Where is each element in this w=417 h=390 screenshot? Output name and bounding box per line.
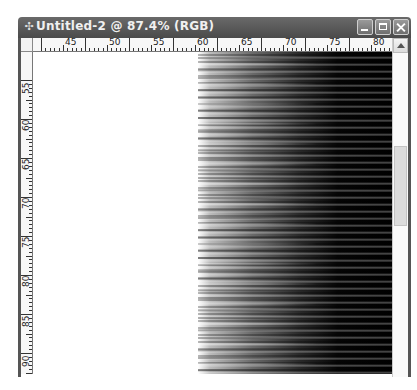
ruler-tick (26, 295, 32, 296)
ruler-tick (182, 48, 183, 51)
ruler-tick (336, 48, 337, 51)
ruler-tick (164, 48, 165, 51)
ruler-label: 60 (197, 38, 208, 47)
ruler-tick (29, 142, 32, 143)
ruler-tick (29, 291, 32, 292)
ruler-tick (142, 48, 143, 51)
ruler-label: 70 (285, 38, 296, 47)
ruler-tick (29, 150, 32, 151)
ruler-tick (29, 181, 32, 182)
ruler-tick (29, 298, 32, 299)
ruler-tick (29, 185, 32, 186)
ruler-label: 65 (22, 156, 31, 170)
close-button[interactable] (393, 19, 409, 35)
ruler-tick (29, 154, 32, 155)
ruler-label: 80 (22, 273, 31, 287)
ruler-origin-corner[interactable] (21, 38, 33, 52)
ruler-tick (29, 135, 32, 136)
ruler-tick (26, 217, 32, 218)
ruler-tick (204, 48, 205, 51)
ruler-tick (199, 48, 200, 51)
ruler-tick (29, 232, 32, 233)
ruler-tick (98, 48, 99, 51)
ruler-tick (81, 48, 82, 51)
ruler-tick (133, 48, 134, 51)
ruler-tick (186, 48, 187, 51)
ruler-tick (29, 263, 32, 264)
ruler-tick (26, 373, 32, 374)
ruler-tick (358, 48, 359, 51)
ruler-tick (26, 178, 32, 179)
ruler-tick (41, 38, 42, 51)
ruler-tick (26, 100, 32, 101)
ruler-label: 55 (22, 80, 31, 94)
ruler-tick (26, 256, 32, 257)
ruler-tick (389, 48, 390, 51)
ruler-tick (67, 48, 68, 51)
ruler-tick (111, 48, 112, 51)
vertical-ruler[interactable]: 5560657075808590 (21, 52, 33, 374)
ruler-tick (116, 48, 117, 51)
ruler-tick (29, 103, 32, 104)
ruler-tick (129, 38, 130, 51)
ruler-tick (45, 48, 46, 51)
ruler-label: 75 (22, 234, 31, 248)
ruler-tick (287, 48, 288, 51)
ruler-tick (177, 48, 178, 51)
ruler-tick (29, 146, 32, 147)
ruler-tick (230, 48, 231, 51)
document-canvas[interactable] (33, 52, 392, 374)
ruler-tick (89, 48, 90, 51)
ruler-tick (29, 341, 32, 342)
ruler-tick (26, 334, 32, 335)
ruler-tick (29, 228, 32, 229)
ruler-tick (384, 48, 385, 51)
ruler-tick (29, 224, 32, 225)
ruler-tick (29, 220, 32, 221)
ruler-tick (29, 252, 32, 253)
ruler-tick (375, 48, 376, 51)
ruler-tick (323, 48, 324, 51)
ruler-tick (367, 48, 368, 51)
ruler-tick (274, 48, 275, 51)
ruler-tick (29, 174, 32, 175)
ruler-tick (29, 271, 32, 272)
title-bar[interactable]: ✣ Untitled-2 @ 87.4% (RGB) (18, 17, 411, 38)
ruler-tick (29, 310, 32, 311)
ruler-label: 90 (22, 353, 31, 367)
ruler-tick (29, 115, 32, 116)
ruler-tick (257, 48, 258, 51)
ruler-tick (29, 345, 32, 346)
scroll-thumb[interactable] (394, 146, 407, 226)
ruler-tick (314, 48, 315, 51)
ruler-tick (76, 48, 77, 51)
ruler-tick (208, 48, 209, 51)
ruler-label: 70 (22, 195, 31, 209)
ruler-label: 75 (329, 38, 340, 47)
ruler-tick (29, 349, 32, 350)
vertical-scrollbar[interactable] (392, 38, 408, 377)
ruler-tick (169, 48, 170, 51)
ruler-tick (29, 189, 32, 190)
ruler-tick (292, 48, 293, 51)
ruler-tick (29, 111, 32, 112)
maximize-button[interactable] (375, 19, 391, 35)
ruler-label: 65 (241, 38, 252, 47)
ruler-tick (380, 48, 381, 51)
ruler-tick (50, 48, 51, 51)
ruler-tick (54, 48, 55, 51)
minimize-button[interactable] (357, 19, 373, 35)
scroll-up-arrow-icon[interactable] (393, 38, 408, 53)
ruler-tick (217, 38, 218, 51)
ruler-tick (353, 48, 354, 51)
ruler-tick (125, 48, 126, 51)
ruler-tick (63, 45, 64, 51)
horizontal-ruler[interactable]: 4550556065707580 (33, 38, 392, 52)
ruler-tick (318, 48, 319, 51)
ruler-tick (279, 48, 280, 51)
photoshop-document-icon: ✣ (23, 21, 35, 33)
ruler-tick (138, 48, 139, 51)
ruler-tick (120, 48, 121, 51)
ruler-tick (29, 213, 32, 214)
ruler-tick (29, 306, 32, 307)
